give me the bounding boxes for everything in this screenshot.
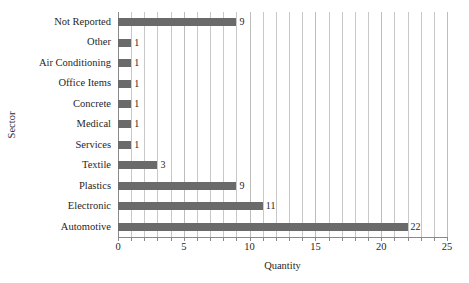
y-axis-tick-label: Office Items [20, 73, 116, 93]
y-axis-title-label: Sector [6, 111, 17, 138]
x-axis-tick-label: 25 [442, 241, 453, 252]
bar-chart: Sector Not ReportedOtherAir Conditioning… [0, 0, 469, 283]
y-axis-title: Sector [2, 12, 20, 237]
x-axis-tick-label: 10 [244, 241, 255, 252]
x-axis-tick-label: 0 [115, 241, 120, 252]
bar-value-label: 1 [134, 58, 139, 68]
bar [118, 120, 131, 128]
y-axis-tick-label: Other [20, 32, 116, 52]
bar-value-label: 22 [411, 222, 421, 232]
bar-row: 1 [118, 94, 447, 114]
bar [118, 39, 131, 47]
bar-row: 3 [118, 155, 447, 175]
y-axis-tick-labels: Not ReportedOtherAir ConditioningOffice … [20, 12, 116, 237]
bars-layer: 9111111391122 [118, 12, 447, 237]
bar [118, 100, 131, 108]
x-axis-title-label: Quantity [264, 260, 301, 271]
bar [118, 80, 131, 88]
bar [118, 182, 236, 190]
y-axis-tick-label: Plastics [20, 176, 116, 196]
y-axis-tick-label: Textile [20, 155, 116, 175]
bar-row: 1 [118, 53, 447, 73]
bar-value-label: 1 [134, 79, 139, 89]
bar-row: 9 [118, 12, 447, 32]
bar [118, 161, 157, 169]
x-axis-spine [118, 237, 447, 238]
bar-value-label: 1 [134, 119, 139, 129]
bar-row: 1 [118, 73, 447, 93]
bar-value-label: 1 [134, 140, 139, 150]
bar-row: 11 [118, 196, 447, 216]
y-axis-tick-label: Air Conditioning [20, 53, 116, 73]
bar [118, 202, 263, 210]
bar [118, 223, 408, 231]
bar-value-label: 3 [160, 160, 165, 170]
plot-area: 9111111391122 [118, 12, 447, 237]
x-axis-tick-label: 20 [376, 241, 387, 252]
bar-value-label: 9 [239, 181, 244, 191]
bar-row: 9 [118, 176, 447, 196]
bar-row: 1 [118, 114, 447, 134]
bar-value-label: 9 [239, 17, 244, 27]
gridline-major [447, 12, 448, 238]
y-axis-tick-label: Not Reported [20, 12, 116, 32]
bar-value-label: 1 [134, 99, 139, 109]
y-axis-tick-label: Electronic [20, 196, 116, 216]
y-axis-tick-label: Concrete [20, 94, 116, 114]
bar [118, 18, 236, 26]
bar [118, 59, 131, 67]
x-axis-title: Quantity [118, 260, 447, 271]
bar-row: 22 [118, 217, 447, 237]
bar-row: 1 [118, 135, 447, 155]
x-axis-tick-labels: 0510152025 [118, 241, 447, 255]
y-axis-tick-label: Services [20, 135, 116, 155]
x-axis-tick-label: 15 [310, 241, 321, 252]
bar-value-label: 11 [266, 201, 276, 211]
y-axis-tick-label: Automotive [20, 217, 116, 237]
y-axis-tick-label: Medical [20, 114, 116, 134]
bar-value-label: 1 [134, 38, 139, 48]
bar-row: 1 [118, 32, 447, 52]
bar [118, 141, 131, 149]
x-axis-tick-label: 5 [181, 241, 186, 252]
